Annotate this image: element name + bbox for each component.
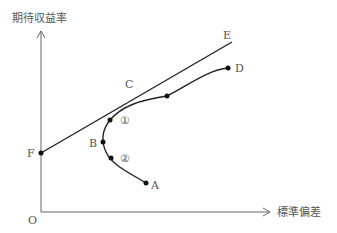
point-B-dot: [101, 140, 106, 145]
point-F-dot: [39, 151, 44, 156]
efficient-frontier-diagram: 期待収益率 標準偏差 O F A B C D E ① ②: [0, 0, 337, 233]
y-axis-label: 期待収益率: [12, 11, 67, 25]
tangent-line-FE: [41, 42, 232, 153]
point-B-label: B: [89, 137, 97, 150]
point-A-dot: [144, 181, 149, 186]
x-axis-label: 標準偏差: [277, 205, 321, 219]
marker-2-dot: [109, 156, 114, 161]
point-C-dot: [165, 94, 170, 99]
point-D-label: D: [235, 62, 244, 75]
marker-1-label: ①: [120, 114, 130, 127]
point-A-label: A: [150, 179, 160, 192]
marker-1-dot: [108, 118, 113, 123]
marker-2-label: ②: [120, 152, 130, 165]
point-C-label: C: [125, 78, 133, 91]
point-F-label: F: [27, 147, 35, 160]
point-D-dot: [226, 66, 231, 71]
point-E-label: E: [223, 29, 231, 42]
origin-label: O: [28, 214, 37, 227]
